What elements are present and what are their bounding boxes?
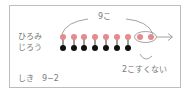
difference-label: 2こすくない [122, 66, 167, 74]
hiromi-dots [60, 34, 154, 40]
row-label-hiromi: ひろみ [18, 33, 42, 41]
row-label-jirou: じろう [18, 44, 42, 52]
total-brace-left [62, 19, 88, 34]
total-label: 9こ [98, 13, 111, 21]
difference-brace [140, 54, 152, 59]
formula-label: しき 9−2 [18, 75, 59, 83]
jirou-dots [60, 45, 131, 51]
